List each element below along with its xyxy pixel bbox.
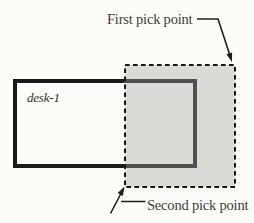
second-pick-point-label: Second pick point [147, 198, 248, 213]
second-pick-arrowhead-icon [118, 187, 125, 196]
crossing-selection-diagram: First pick point Second pick point desk-… [0, 0, 254, 223]
first-pick-point-label: First pick point [107, 12, 192, 27]
first-pick-arrowhead-icon [226, 53, 232, 63]
first-pick-leader-line [197, 19, 231, 57]
desk-object-label: desk-1 [27, 91, 60, 104]
diagram-drawing [0, 0, 254, 223]
selection-window-fill [125, 65, 235, 187]
second-pick-leader-line [111, 193, 146, 214]
